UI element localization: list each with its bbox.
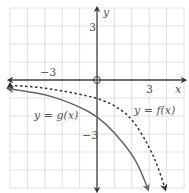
y-axis-label: y xyxy=(102,6,110,19)
g-curve-label: y = g(x) xyxy=(33,109,78,122)
y-tick-neg3: −3 xyxy=(82,129,98,142)
f-curve-label: y = f(x) xyxy=(133,104,175,117)
x-tick-pos3: 3 xyxy=(146,83,153,96)
g-label-fn: g(x) xyxy=(56,109,78,122)
function-graph: −3 3 3 −3 x y y = g(x) y = f(x) xyxy=(0,0,189,193)
g-label-eq: = xyxy=(40,109,56,122)
y-tick-pos3: 3 xyxy=(89,21,96,34)
x-tick-neg3: −3 xyxy=(40,66,56,79)
f-label-eq: = xyxy=(140,104,156,117)
f-label-fn: f(x) xyxy=(155,104,175,117)
curve-g xyxy=(10,89,147,188)
x-axis-label: x xyxy=(175,83,182,96)
